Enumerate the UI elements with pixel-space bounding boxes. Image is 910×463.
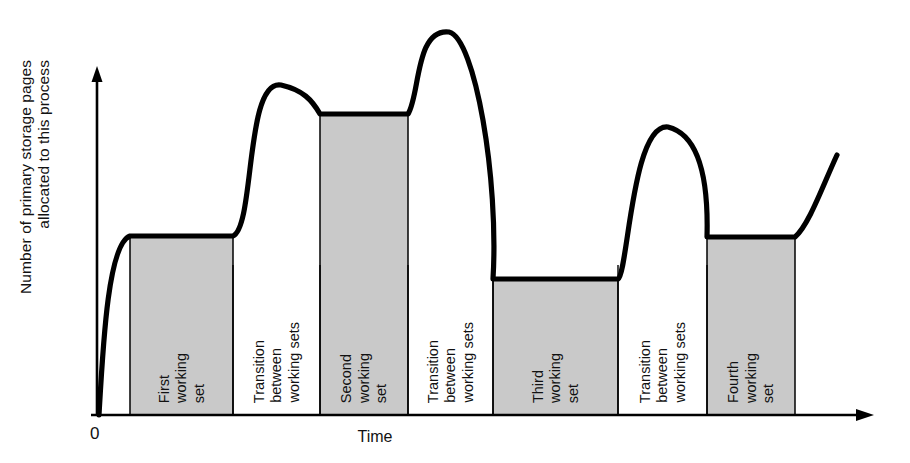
band-first-working-set [130, 236, 233, 415]
band-third-working-set [493, 279, 618, 415]
band-fourth-working-set [707, 237, 795, 415]
x-axis-arrowhead [856, 409, 874, 421]
y-axis-arrowhead [92, 66, 103, 82]
band-second-working-set [320, 114, 408, 415]
band-group [130, 114, 795, 415]
origin-label: 0 [90, 424, 99, 444]
y-axis-title: Number of primary storage pages allocate… [18, 60, 82, 410]
working-set-chart: Number of primary storage pages allocate… [0, 0, 910, 463]
x-axis-title: Time [0, 428, 910, 446]
chart-canvas [0, 0, 910, 463]
y-axis-title-line-2: allocated to this process [36, 60, 52, 229]
y-axis-title-line-1: Number of primary storage pages [18, 60, 34, 294]
x-axis-title-text: Time [358, 428, 393, 445]
